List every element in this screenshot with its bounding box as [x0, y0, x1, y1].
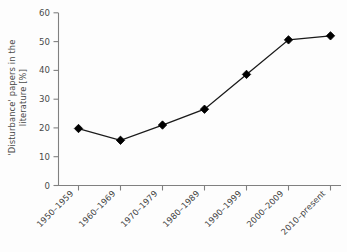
- y-tick-label-60: 60: [39, 8, 50, 18]
- y-tick-label-10: 10: [39, 152, 50, 162]
- y-tick-label-20: 20: [39, 123, 50, 133]
- y-tick-label-50: 50: [39, 37, 50, 47]
- x-tick-label-4: 1990–1999: [203, 188, 244, 229]
- x-axis-tick-labels: 1950–1959 1960–1969 1970–1979 1980–1989 …: [35, 188, 328, 237]
- x-tick-label-5: 2000–2009: [245, 188, 286, 229]
- data-point-marker: [326, 32, 334, 40]
- plot-area: 0 10 20 30 40 50 60 1950–1959 1960–1969 …: [0, 0, 347, 252]
- data-point-marker: [74, 124, 82, 132]
- chart-figure: 'Disturbance' papers in the literature […: [0, 0, 347, 252]
- x-tick-label-0: 1950–1959: [35, 188, 76, 229]
- x-tick-label-1: 1960–1969: [77, 188, 118, 229]
- y-tick-label-40: 40: [39, 65, 50, 75]
- y-tick-label-30: 30: [39, 94, 50, 104]
- x-axis-ticks: [79, 186, 331, 191]
- x-tick-label-3: 1980–1989: [161, 188, 202, 229]
- x-tick-label-6: 2010–present: [279, 188, 328, 237]
- data-point-marker: [158, 121, 166, 129]
- x-tick-label-2: 1970–1979: [119, 188, 160, 229]
- y-axis-tick-labels: 0 10 20 30 40 50 60: [39, 8, 50, 191]
- y-tick-label-0: 0: [45, 181, 50, 191]
- y-axis-ticks: [54, 13, 59, 186]
- data-point-marker: [116, 136, 124, 144]
- data-markers: [74, 32, 334, 145]
- data-line-disturbance-papers: [79, 36, 331, 140]
